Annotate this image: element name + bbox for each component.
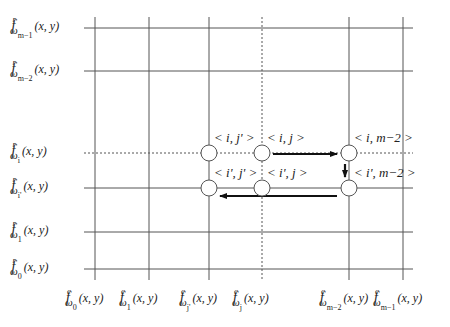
column-label-3: fcωj(x, y) bbox=[232, 286, 269, 312]
column-lines bbox=[95, 17, 403, 280]
node-label-n6: < i', j' > bbox=[214, 165, 257, 180]
node-n1 bbox=[201, 145, 217, 161]
node-label-n5: < i', j > bbox=[267, 165, 308, 180]
node-n6 bbox=[201, 180, 217, 196]
node-n4 bbox=[341, 180, 357, 196]
row-lines bbox=[84, 28, 413, 269]
row-label-5: frω0(x, y) bbox=[10, 255, 48, 281]
column-labels: fcω0(x, y)fcω1(x, y)fcωj'(x, y)fcωj(x, y… bbox=[65, 286, 422, 312]
row-label-0: frωm−1(x, y) bbox=[10, 14, 59, 40]
node-n3 bbox=[341, 145, 357, 161]
row-label-1: frωm−2(x, y) bbox=[10, 57, 59, 83]
node-label-n2: < i, j > bbox=[267, 130, 305, 145]
node-label-n3: < i, m−2 > bbox=[354, 130, 413, 145]
column-label-2: fcωj'(x, y) bbox=[179, 286, 217, 312]
grid-nodes: < i, j' >< i, j >< i, m−2 >< i', m−2 >< … bbox=[201, 130, 416, 196]
column-label-4: fcωm−2(x, y) bbox=[319, 286, 368, 312]
column-label-0: fcω0(x, y) bbox=[65, 286, 103, 312]
column-label-5: fcωm−1(x, y) bbox=[373, 286, 422, 312]
node-label-n4: < i', m−2 > bbox=[354, 165, 416, 180]
grid-diagram: frωm−1(x, y)frωm−2(x, y)frωi(x, y)frωi'(… bbox=[0, 0, 450, 327]
column-label-1: fcω1(x, y) bbox=[119, 286, 157, 312]
row-label-2: frωi(x, y) bbox=[10, 139, 47, 165]
node-n2 bbox=[254, 145, 270, 161]
node-label-n1: < i, j' > bbox=[214, 130, 255, 145]
row-label-4: frω1(x, y) bbox=[10, 218, 48, 244]
node-n5 bbox=[254, 180, 270, 196]
row-labels: frωm−1(x, y)frωm−2(x, y)frωi(x, y)frωi'(… bbox=[10, 14, 59, 281]
row-label-3: frωi'(x, y) bbox=[10, 174, 48, 200]
